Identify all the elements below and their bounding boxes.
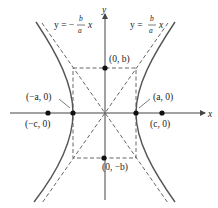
asymptote-right-den: a: [149, 26, 153, 35]
hyperbola-right-branch: [136, 22, 175, 202]
vertex-right-label: (a, 0): [153, 92, 173, 103]
leader-vertex-left: [59, 99, 70, 108]
x-axis-label: x: [207, 109, 213, 119]
leader-vertex-right: [139, 99, 150, 108]
focus-left-label: (−c, 0): [25, 119, 50, 130]
covertex-top-label: (0, b): [109, 54, 130, 65]
asymptote-right-num: b: [150, 14, 154, 23]
focus-right-point: [159, 110, 164, 115]
covertex-bottom-label: (0, −b): [102, 162, 128, 173]
asymptote-left-var: x: [87, 20, 93, 30]
asymptote-left-prefix: y = −: [54, 20, 74, 30]
vertex-right-point: [133, 110, 138, 115]
hyperbola-diagram: y x y = − b a x y = b a x (0, b) (−a, 0)…: [0, 0, 218, 208]
covertex-bottom-point: [101, 155, 106, 160]
asymptote-right-equation: y = b a x: [130, 14, 164, 35]
asymptote-left-num: b: [79, 14, 83, 23]
vertex-left-point: [70, 110, 75, 115]
focus-left-point: [45, 110, 50, 115]
covertex-top-point: [102, 65, 107, 70]
focus-right-label: (c, 0): [150, 119, 170, 130]
vertex-left-label: (−a, 0): [26, 92, 51, 103]
y-axis-label: y: [101, 5, 107, 15]
asymptote-left-equation: y = − b a x: [54, 14, 93, 35]
hyperbola-left-branch: [34, 22, 73, 202]
asymptote-right-var: x: [158, 20, 164, 30]
asymptote-left-den: a: [78, 26, 82, 35]
asymptote-right-prefix: y =: [130, 20, 142, 30]
